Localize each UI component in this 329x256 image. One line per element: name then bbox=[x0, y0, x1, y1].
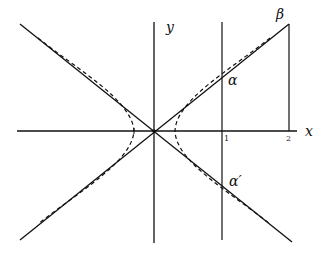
hyperbola-diagram: y x 1 2 β α α′ bbox=[0, 0, 329, 256]
origin-point bbox=[152, 129, 156, 133]
beta-label: β bbox=[276, 7, 284, 21]
tick-label-2: 2 bbox=[286, 135, 291, 143]
alpha-prime-label: α′ bbox=[229, 174, 242, 188]
y-axis-label: y bbox=[166, 20, 174, 34]
alpha-label: α bbox=[228, 73, 237, 87]
x-axis-label: x bbox=[305, 124, 313, 138]
diagram-svg bbox=[0, 0, 329, 256]
tick-label-1: 1 bbox=[224, 135, 229, 143]
